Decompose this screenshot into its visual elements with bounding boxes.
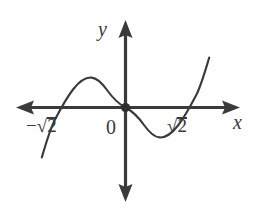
radical-sign-icon: √ — [167, 115, 177, 136]
x-tick-label-positive-sqrt2: √2 — [167, 116, 187, 135]
radical-group-negative: √2 — [37, 116, 57, 135]
x-tick-label-negative-sqrt2: −√2 — [26, 116, 57, 135]
radical-group-positive: √2 — [167, 116, 187, 135]
y-axis-label: y — [98, 19, 107, 39]
radical-vinculum — [177, 117, 187, 119]
origin-point-marker — [121, 103, 130, 112]
graph-canvas — [0, 0, 258, 214]
math-graph-figure: y x 0 −√2 √2 — [0, 0, 258, 214]
minus-sign: − — [26, 115, 37, 136]
x-axis-label: x — [233, 112, 242, 132]
radical-sign-icon: √ — [37, 115, 47, 136]
origin-label: 0 — [106, 117, 116, 137]
radical-vinculum — [47, 117, 57, 119]
